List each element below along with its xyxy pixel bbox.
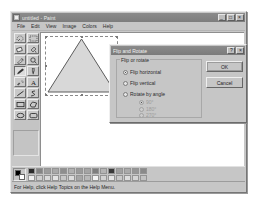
palette-swatch[interactable] [140,168,147,174]
color-swatch-grid [28,168,147,181]
selection-handle-top-center[interactable] [81,36,83,38]
color-palette-bar [12,166,245,181]
radio-angle-180-indicator[interactable] [139,107,144,112]
palette-swatch[interactable] [92,175,99,181]
curve-tool[interactable] [27,88,39,98]
airbrush-tool[interactable] [14,77,26,87]
svg-text:A: A [30,79,35,86]
palette-swatch[interactable] [124,175,131,181]
cancel-button-label: Cancel [217,80,233,86]
palette-swatch[interactable] [76,175,83,181]
eraser-tool[interactable] [14,44,26,54]
radio-angle-270-indicator[interactable] [139,113,144,118]
question-mark-icon: ? [230,48,233,53]
palette-swatch[interactable] [60,168,67,174]
fill-with-color-tool[interactable] [27,44,39,54]
radio-flip-vertical[interactable]: Flip vertical [123,80,155,86]
menu-item-file[interactable]: File [14,23,28,29]
flip-or-rotate-groupbox: Flip or rotate Flip horizontal Flip vert… [116,59,202,118]
ok-button-label: OK [221,64,228,70]
polygon-tool[interactable] [27,99,39,109]
palette-swatch[interactable] [28,168,35,174]
radio-flip-horizontal-indicator[interactable] [123,70,128,75]
close-button[interactable] [236,14,244,21]
selection-handle-top-right[interactable] [116,36,118,38]
rectangular-select-tool[interactable] [27,33,39,43]
palette-swatch[interactable] [44,168,51,174]
maximize-button[interactable] [227,14,235,21]
palette-swatch[interactable] [60,175,67,181]
current-color-indicator[interactable] [13,168,26,181]
radio-flip-horizontal-label: Flip horizontal [130,69,161,75]
close-icon: × [239,48,242,53]
radio-flip-vertical-indicator[interactable] [123,81,128,86]
palette-swatch[interactable] [76,168,83,174]
palette-swatch[interactable] [132,175,139,181]
line-tool[interactable] [14,88,26,98]
ok-button[interactable]: OK [206,61,243,72]
radio-rotate-by-angle[interactable]: Rotate by angle [123,91,165,97]
screenshot-root: untitled - Paint File Edit View Image Co… [0,0,254,203]
palette-swatch[interactable] [108,168,115,174]
triangle-shape [46,37,117,95]
palette-swatch[interactable] [68,168,75,174]
palette-swatch[interactable] [84,168,91,174]
menu-item-help[interactable]: Help [100,23,116,29]
cancel-button[interactable]: Cancel [206,77,243,88]
statusbar: For Help, click Help Topics on the Help … [12,181,245,191]
brush-tool[interactable] [27,66,39,76]
palette-swatch[interactable] [52,175,59,181]
palette-swatch[interactable] [140,175,147,181]
radio-rotate-by-angle-indicator[interactable] [123,92,128,97]
palette-swatch[interactable] [100,175,107,181]
background-color-swatch[interactable] [19,174,25,180]
dialog-help-button[interactable]: ? [227,47,235,54]
rectangle-tool[interactable] [14,99,26,109]
pick-color-tool[interactable] [14,55,26,65]
palette-swatch[interactable] [108,175,115,181]
palette-swatch[interactable] [28,175,35,181]
palette-swatch[interactable] [44,175,51,181]
window-titlebar[interactable]: untitled - Paint [12,13,245,22]
menu-item-view[interactable]: View [43,23,60,29]
selection-marquee[interactable] [46,37,117,95]
free-form-select-tool[interactable] [14,33,26,43]
menubar: File Edit View Image Colors Help [12,22,245,31]
palette-swatch[interactable] [52,168,59,174]
selection-handle-middle-left[interactable] [45,65,47,67]
palette-swatch[interactable] [100,168,107,174]
palette-swatch[interactable] [68,175,75,181]
palette-swatch[interactable] [116,168,123,174]
window-controls [218,14,244,21]
palette-swatch[interactable] [36,175,43,181]
ellipse-tool[interactable] [14,110,26,120]
radio-flip-horizontal[interactable]: Flip horizontal [123,69,161,75]
selection-handle-top-left[interactable] [45,36,47,38]
radio-angle-90-indicator[interactable] [139,100,144,105]
palette-swatch[interactable] [92,168,99,174]
radio-angle-270[interactable]: 270° [139,112,156,118]
palette-swatch[interactable] [36,168,43,174]
minimize-button[interactable] [218,14,226,21]
radio-flip-vertical-label: Flip vertical [130,80,155,86]
radio-angle-180-label: 180° [146,106,156,112]
magnifier-tool[interactable] [27,55,39,65]
selection-handle-bottom-center[interactable] [81,94,83,96]
menu-item-image[interactable]: Image [59,23,79,29]
text-tool[interactable]: A [27,77,39,87]
dialog-titlebar[interactable]: Flip and Rotate ? × [111,46,245,55]
dialog-close-button[interactable]: × [236,47,244,54]
radio-angle-90[interactable]: 90° [139,99,154,105]
menu-item-colors[interactable]: Colors [79,23,99,29]
palette-swatch[interactable] [132,168,139,174]
rounded-rectangle-tool[interactable] [27,110,39,120]
radio-rotate-by-angle-label: Rotate by angle [130,91,165,97]
window-title: untitled - Paint [22,15,218,21]
selection-handle-bottom-left[interactable] [45,94,47,96]
radio-angle-270-label: 270° [146,112,156,118]
palette-swatch[interactable] [84,175,91,181]
menu-item-edit[interactable]: Edit [28,23,43,29]
palette-swatch[interactable] [124,168,131,174]
pencil-tool[interactable] [14,66,26,76]
palette-swatch[interactable] [116,175,123,181]
